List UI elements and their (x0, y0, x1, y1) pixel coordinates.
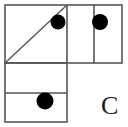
figure-label: C (101, 93, 118, 119)
dot-lower-left-cell (37, 93, 54, 110)
diagonal-line (5, 5, 67, 63)
dot-upper-left-square (51, 15, 66, 30)
figure-container: C (0, 0, 128, 127)
top-rectangle (5, 5, 122, 63)
dot-upper-right-cell (92, 14, 108, 30)
